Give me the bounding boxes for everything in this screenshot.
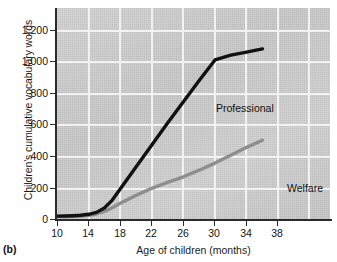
y-tick-label: 1,000 [22, 55, 48, 67]
y-tick-mark [50, 219, 56, 220]
x-tick-label: 26 [168, 227, 198, 239]
y-tick-label: 200 [30, 182, 48, 194]
y-tick-mark [50, 30, 56, 31]
y-tick-mark [50, 188, 56, 189]
y-tick-label: 0 [42, 213, 48, 225]
y-tick-label: 600 [30, 118, 48, 130]
y-tick-label: 800 [30, 87, 48, 99]
x-tick-mark [120, 221, 121, 226]
x-tick-label: 22 [136, 227, 166, 239]
chart-figure: Children's cumulative vocabulary words P… [0, 0, 337, 262]
line-welfare [57, 140, 262, 216]
y-tick-mark [50, 124, 56, 125]
x-tick-label: 38 [262, 227, 292, 239]
y-tick-label: 1,200 [22, 24, 48, 36]
y-tick-mark [50, 93, 56, 94]
x-tick-mark [88, 221, 89, 226]
x-tick-mark [151, 221, 152, 226]
x-axis-line [55, 219, 332, 221]
series-label-welfare: Welfare [287, 182, 323, 194]
x-tick-mark [57, 221, 58, 226]
plot-area: Professional Welfare [57, 8, 330, 220]
y-axis-line [55, 8, 57, 221]
y-tick-mark [50, 156, 56, 157]
y-tick-mark [50, 61, 56, 62]
panel-tag: (b) [3, 243, 16, 255]
line-professional [57, 49, 262, 216]
x-tick-label: 30 [199, 227, 229, 239]
x-tick-mark [214, 221, 215, 226]
x-tick-mark [246, 221, 247, 226]
x-tick-mark [277, 221, 278, 226]
y-tick-label: 400 [30, 150, 48, 162]
x-tick-label: 10 [42, 227, 72, 239]
x-tick-label: 18 [105, 227, 135, 239]
x-tick-mark [183, 221, 184, 226]
x-tick-label: 14 [73, 227, 103, 239]
x-axis-title: Age of children (months) [57, 244, 330, 256]
series-label-professional: Professional [216, 102, 274, 114]
x-tick-label: 34 [231, 227, 261, 239]
